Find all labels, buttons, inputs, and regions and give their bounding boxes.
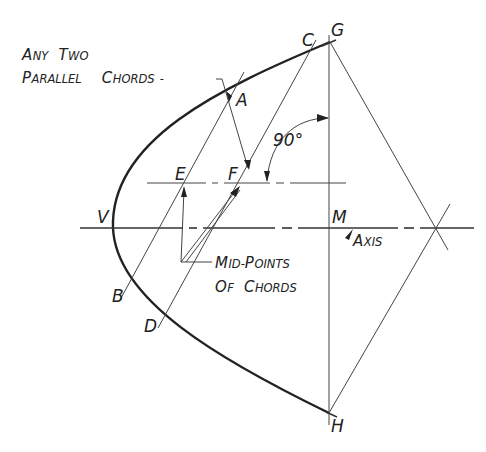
arrow-to-e [181, 186, 187, 197]
label-point-c: C [302, 30, 314, 50]
label-point-d: D [144, 316, 157, 336]
arrow-axis [345, 229, 353, 240]
midpoints-leader-f [181, 189, 237, 262]
label-point-v: V [97, 207, 110, 227]
arrow-angle-top [317, 114, 329, 122]
line-g-intersection [330, 42, 448, 250]
midpoints-leader [181, 190, 212, 262]
midpoints-leader-f2 [186, 190, 240, 262]
midpoints-label-line-2: OFCHORDS [215, 278, 297, 296]
title-line-2: PARALLELCHORDS - [22, 68, 164, 87]
midpoints-label-line-1: MID-POINTS [215, 254, 290, 272]
axis-label: AXIS [352, 232, 382, 250]
line-h-intersection [329, 204, 450, 413]
label-point-m: M [332, 207, 347, 227]
label-point-b: B [112, 286, 124, 306]
label-point-e: E [175, 164, 186, 184]
title-line-1: ANYTWO [21, 46, 89, 64]
parabola-construction-diagram: ANYTWO PARALLELCHORDS - A B C D E F G H … [0, 0, 486, 452]
angle-label: 90° [273, 130, 303, 150]
label-point-a: A [235, 90, 248, 110]
label-point-f: F [228, 164, 238, 184]
label-point-h: H [331, 416, 344, 436]
arrow-angle-bottom [264, 171, 270, 182]
label-point-g: G [331, 20, 344, 40]
